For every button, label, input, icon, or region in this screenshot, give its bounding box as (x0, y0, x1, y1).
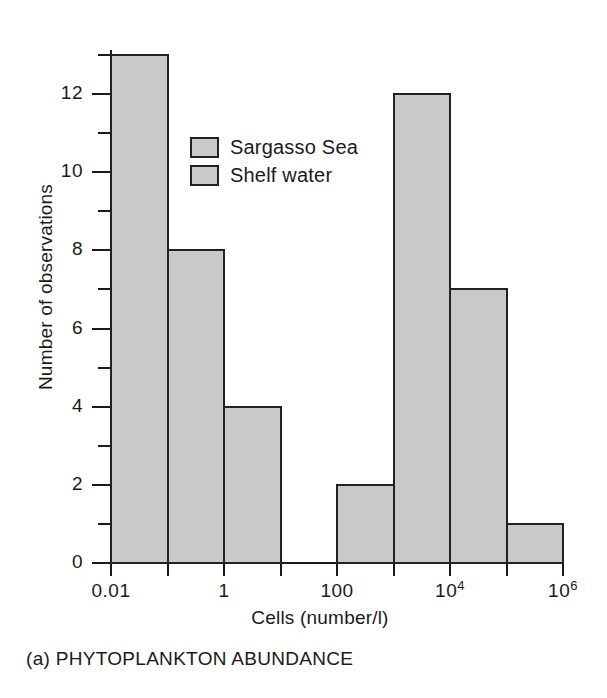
x-tick-label: 1 (184, 580, 264, 602)
y-axis-title: Number of observations (35, 137, 57, 437)
legend-swatch-icon (190, 137, 219, 158)
histogram-bar (167, 249, 226, 564)
chart-legend: Sargasso SeaShelf water (190, 133, 358, 189)
y-tick-minor (98, 132, 110, 134)
histogram-bar (393, 93, 452, 564)
y-tick-minor (98, 54, 110, 56)
y-tick-label: 4 (43, 396, 83, 415)
y-tick-major (92, 171, 110, 173)
figure-caption: (a) PHYTOPLANKTON ABUNDANCE (26, 648, 353, 670)
y-tick-minor (98, 210, 110, 212)
x-tick (336, 563, 338, 576)
y-tick-label: 8 (43, 239, 83, 258)
x-tick (393, 563, 395, 576)
y-tick-label: 0 (43, 552, 83, 571)
x-tick (562, 563, 564, 576)
y-tick-label: 2 (43, 474, 83, 493)
x-tick-label: 0.01 (71, 580, 151, 602)
histogram-bar (336, 484, 395, 564)
x-tick (223, 563, 225, 576)
y-tick-label: 10 (43, 161, 83, 180)
y-tick-label: 12 (43, 83, 83, 102)
histogram-bar (506, 523, 565, 564)
x-axis-title: Cells (number/l) (110, 607, 530, 629)
y-tick-label: 6 (43, 318, 83, 337)
x-tick (449, 563, 451, 576)
legend-label: Shelf water (230, 165, 332, 185)
x-tick-label: 104 (410, 580, 490, 602)
x-tick-label: 106 (523, 580, 603, 602)
y-tick-major (92, 249, 110, 251)
legend-item: Sargasso Sea (190, 133, 358, 161)
legend-label: Sargasso Sea (230, 137, 358, 157)
y-tick-major (92, 484, 110, 486)
legend-item: Shelf water (190, 161, 358, 189)
y-tick-minor (98, 445, 110, 447)
x-tick (506, 563, 508, 576)
histogram-bar (110, 54, 169, 564)
legend-swatch-icon (190, 165, 219, 186)
histogram-bar (449, 288, 508, 564)
y-tick-major (92, 93, 110, 95)
y-tick-major (92, 562, 110, 564)
x-tick (280, 563, 282, 576)
y-tick-minor (98, 523, 110, 525)
y-tick-minor (98, 288, 110, 290)
y-tick-major (92, 406, 110, 408)
x-tick-label: 100 (297, 580, 377, 602)
x-tick (167, 563, 169, 576)
y-tick-major (92, 328, 110, 330)
histogram-bar (223, 406, 282, 564)
phytoplankton-abundance-figure: Number of observations 024681012 0.01110… (0, 0, 607, 698)
x-tick (110, 563, 112, 576)
y-tick-minor (98, 367, 110, 369)
